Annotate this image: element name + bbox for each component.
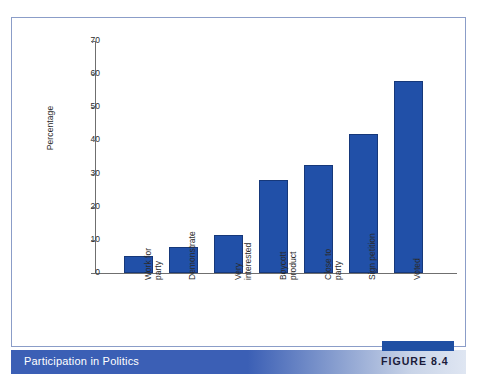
figure-number-tab xyxy=(382,341,454,351)
x-label-demonstrate: Demonstrate xyxy=(188,231,198,280)
x-label-close-to-party: Close toparty xyxy=(324,249,343,280)
x-label-line: interested xyxy=(243,243,253,280)
x-label-very-interested: Veryinterested xyxy=(234,243,253,280)
bars-layer xyxy=(12,18,467,348)
x-label-line: Demonstrate xyxy=(187,231,197,280)
bar-voted xyxy=(394,81,423,273)
x-label-voted: Voted xyxy=(413,258,423,280)
x-label-line: party xyxy=(153,248,163,280)
x-label-line: Work for xyxy=(143,248,153,280)
x-label-work-for-party: Work forparty xyxy=(144,248,163,280)
x-label-line: party xyxy=(333,249,343,280)
figure-panel: Percentage 010203040506070 Work forparty… xyxy=(11,17,466,347)
x-label-boycott-product: Boycottproduct xyxy=(279,252,298,280)
x-label-line: Voted xyxy=(412,258,422,280)
x-label-line: Close to xyxy=(323,249,333,280)
figure-number-label: FIGURE 8.4 xyxy=(381,355,449,367)
chart-plot-area: Percentage 010203040506070 Work forparty… xyxy=(12,18,467,348)
x-label-line: Boycott xyxy=(278,252,288,280)
figure-caption: Participation in Politics xyxy=(24,355,139,367)
x-label-sign-petition: Sign petition xyxy=(368,233,378,280)
x-label-line: product xyxy=(288,252,298,280)
x-label-line: Very xyxy=(233,263,243,280)
x-label-line: Sign petition xyxy=(367,233,377,280)
